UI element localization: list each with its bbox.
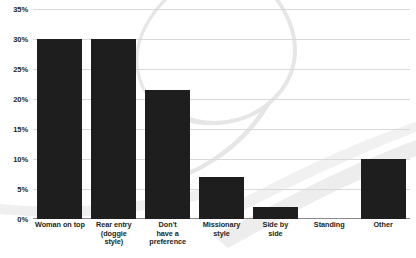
x-axis-tick-label: Standing — [303, 221, 355, 230]
x-axis-tick-label: Don'thave apreference — [142, 221, 194, 247]
bar — [145, 90, 190, 219]
x-axis-label-slot: Rear entry(doggiestyle) — [87, 221, 141, 247]
y-axis-tick-label: 35% — [13, 5, 28, 14]
y-axis-tick-label: 5% — [17, 185, 28, 194]
bar-slot — [87, 9, 141, 219]
x-axis-tick-label: Other — [357, 221, 409, 230]
bar-chart: 35% 30% 25% 20% 15% 10% 5% 0% Woman on t… — [0, 0, 416, 258]
bar — [253, 207, 298, 219]
bar-slot — [356, 9, 410, 219]
bar-slot — [195, 9, 249, 219]
x-axis-labels: Woman on top Rear entry(doggiestyle) Don… — [33, 221, 410, 247]
x-axis-label-slot: Other — [356, 221, 410, 247]
bar — [37, 39, 82, 219]
bar-slot — [141, 9, 195, 219]
y-axis-tick-label: 25% — [13, 65, 28, 74]
x-axis-label-slot: Missionarystyle — [195, 221, 249, 247]
bar-slot — [248, 9, 302, 219]
y-axis-tick-label: 20% — [13, 95, 28, 104]
bar-slot — [302, 9, 356, 219]
bar-series — [33, 9, 410, 219]
y-axis-tick-label: 0% — [17, 215, 28, 224]
y-axis-tick-label: 15% — [13, 125, 28, 134]
y-axis-tick-label: 30% — [13, 35, 28, 44]
bar — [199, 177, 244, 219]
plot-area: 35% 30% 25% 20% 15% 10% 5% 0% — [33, 9, 410, 219]
x-axis-tick-label: Rear entry(doggiestyle) — [88, 221, 140, 247]
x-axis-label-slot: Standing — [302, 221, 356, 247]
x-axis-label-slot: Don'thave apreference — [141, 221, 195, 247]
bar — [91, 39, 136, 219]
x-axis-tick-label: Woman on top — [34, 221, 86, 230]
x-axis-tick-label: Missionarystyle — [196, 221, 248, 238]
x-axis-label-slot: Woman on top — [33, 221, 87, 247]
bar — [361, 159, 406, 219]
bar-slot — [33, 9, 87, 219]
x-axis-label-slot: Side byside — [248, 221, 302, 247]
x-axis-tick-label: Side byside — [249, 221, 301, 238]
y-axis-tick-label: 10% — [13, 155, 28, 164]
